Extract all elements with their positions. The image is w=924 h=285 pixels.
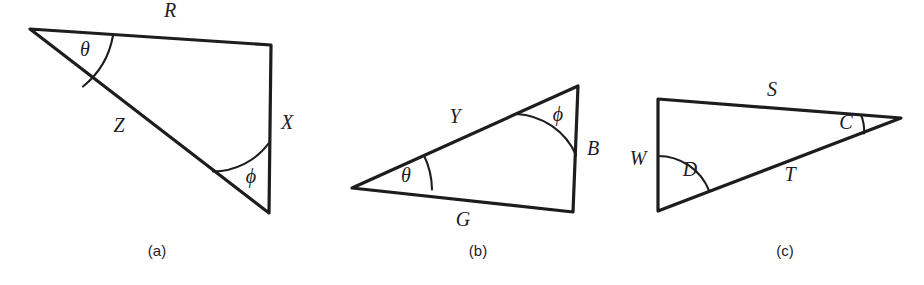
caption-c: (c) (776, 242, 794, 259)
triangle-c-outline (658, 99, 901, 211)
side-label-G: G (456, 208, 471, 230)
triangle-a-outline (30, 29, 271, 213)
angle-label-theta-b: θ (401, 164, 411, 186)
caption-b: (b) (469, 242, 487, 259)
angle-arc-phi-a (213, 143, 269, 172)
angle-label-phi-a: ϕ (246, 165, 256, 188)
angle-label-C-c: C (839, 111, 853, 133)
side-label-X: X (280, 111, 294, 133)
angle-arc-theta-b (424, 156, 432, 190)
side-label-Z: Z (113, 114, 125, 136)
panel-a: R X Z θ ϕ (a) (30, 0, 294, 259)
angle-label-D-c: D (682, 158, 698, 180)
angle-label-theta-a: θ (80, 38, 90, 60)
side-label-B: B (587, 137, 599, 159)
side-label-Y: Y (449, 105, 462, 127)
panel-b: Y B G θ ϕ (b) (352, 86, 599, 259)
angle-arc-phi-b (516, 114, 576, 155)
side-label-R: R (163, 0, 176, 21)
side-label-W: W (630, 147, 649, 169)
side-label-T: T (784, 163, 797, 185)
side-label-S: S (767, 78, 777, 100)
figure-canvas: R X Z θ ϕ (a) Y B G θ ϕ (b) (0, 0, 924, 285)
triangle-b-outline (352, 86, 578, 212)
triangles-figure: R X Z θ ϕ (a) Y B G θ ϕ (b) (0, 0, 924, 285)
caption-a: (a) (148, 242, 166, 259)
angle-label-phi-b: ϕ (553, 103, 563, 126)
angle-arc-C-c (861, 115, 864, 134)
panel-c: S W T C D (c) (630, 78, 901, 259)
